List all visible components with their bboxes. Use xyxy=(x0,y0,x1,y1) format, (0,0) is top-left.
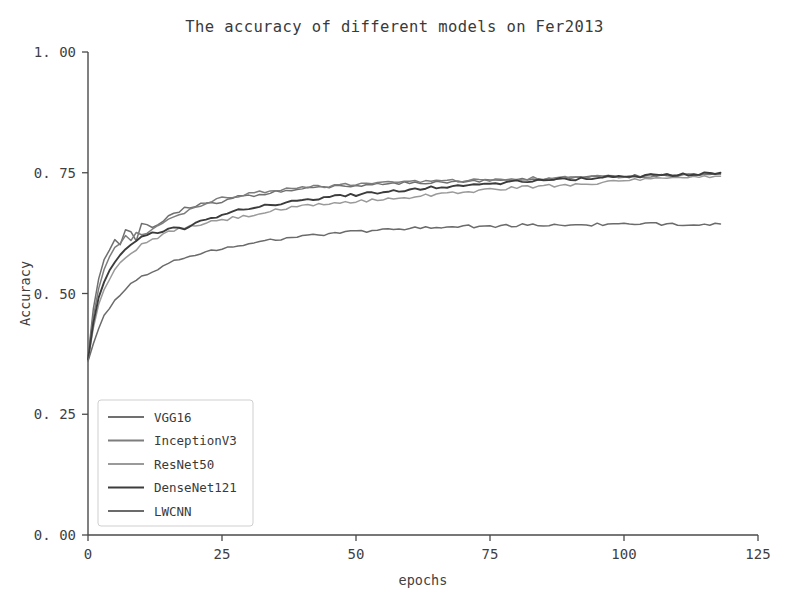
legend-label-resnet50: ResNet50 xyxy=(154,457,214,472)
y-tick-label: 0. 00 xyxy=(34,527,76,543)
series-line-densenet121 xyxy=(88,172,720,359)
x-tick-label: 75 xyxy=(482,546,499,562)
x-axis-ticks: 0255075100125 xyxy=(84,535,771,562)
y-tick-label: 1. 00 xyxy=(34,44,76,60)
series-line-lwcnn xyxy=(88,223,720,362)
legend-label-lwcnn: LWCNN xyxy=(154,504,192,519)
x-axis-title: epochs xyxy=(399,572,448,588)
legend-label-densenet121: DenseNet121 xyxy=(154,480,237,495)
series-line-resnet50 xyxy=(88,176,720,361)
y-axis-title: Accuracy xyxy=(17,261,33,326)
chart-legend: VGG16InceptionV3ResNet50DenseNet121LWCNN xyxy=(98,400,253,526)
x-tick-label: 50 xyxy=(348,546,365,562)
y-axis-ticks: 0. 000. 250. 500. 751. 00 xyxy=(34,44,88,543)
y-tick-label: 0. 75 xyxy=(34,165,76,181)
series-line-inceptionv3 xyxy=(88,173,720,359)
series-line-vgg16 xyxy=(88,174,720,358)
x-tick-label: 100 xyxy=(611,546,636,562)
chart-figure: The accuracy of different models on Fer2… xyxy=(0,0,789,606)
accuracy-line-chart: 0255075100125 0. 000. 250. 500. 751. 00 … xyxy=(0,0,789,606)
x-tick-label: 0 xyxy=(84,546,92,562)
x-tick-label: 25 xyxy=(214,546,231,562)
x-tick-label: 125 xyxy=(745,546,770,562)
legend-label-inceptionv3: InceptionV3 xyxy=(154,433,237,448)
legend-label-vgg16: VGG16 xyxy=(154,410,192,425)
series-lines xyxy=(88,172,720,361)
y-tick-label: 0. 25 xyxy=(34,406,76,422)
y-tick-label: 0. 50 xyxy=(34,286,76,302)
